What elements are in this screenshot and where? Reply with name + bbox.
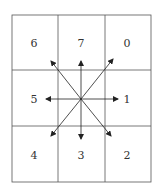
- arrow-6-upper-left: [51, 61, 81, 99]
- arrow-2-lower-right: [81, 99, 111, 136]
- label-6: 6: [31, 37, 38, 50]
- label-2: 2: [124, 149, 131, 162]
- label-4: 4: [31, 149, 38, 162]
- label-3: 3: [78, 149, 85, 162]
- direction-grid-diagram: 6 7 0 5 1 4 3 2: [0, 0, 163, 190]
- label-7: 7: [78, 37, 85, 50]
- arrow-4-lower-left: [51, 99, 81, 136]
- direction-arrows: [46, 59, 118, 139]
- arrow-0-upper-right: [81, 59, 113, 99]
- label-0: 0: [124, 37, 131, 50]
- label-5: 5: [31, 93, 38, 106]
- label-1: 1: [124, 93, 131, 106]
